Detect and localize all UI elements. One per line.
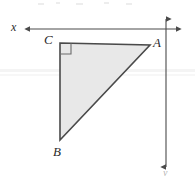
y-axis-label: y (163, 168, 167, 176)
triangle-abc (60, 43, 150, 140)
x-axis-label: x (11, 21, 16, 33)
figure-canvas (0, 0, 195, 176)
geometry-figure-screenshot: C A B x y (0, 0, 195, 176)
vertex-label-c: C (44, 33, 53, 46)
vertex-label-a: A (153, 36, 161, 49)
vertex-label-b: B (53, 145, 61, 158)
